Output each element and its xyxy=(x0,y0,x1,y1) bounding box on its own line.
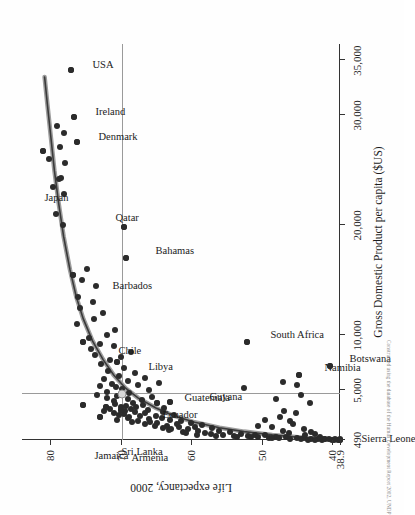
point-label-botswana: Botswana xyxy=(350,353,391,364)
data-point xyxy=(61,130,67,136)
point-label-bahamas: Bahamas xyxy=(156,245,195,256)
data-point xyxy=(199,422,205,428)
data-point-armenia xyxy=(97,414,103,420)
highlighted-data-point xyxy=(118,389,127,398)
data-point xyxy=(135,382,141,388)
data-point xyxy=(79,277,85,283)
data-point xyxy=(152,423,158,429)
data-point-ireland xyxy=(71,114,77,120)
x-tick-label: 20,000 xyxy=(351,210,363,240)
data-point xyxy=(132,370,138,376)
data-point xyxy=(156,380,162,386)
data-point-japan xyxy=(40,148,46,154)
data-point xyxy=(277,414,283,420)
data-point xyxy=(287,436,293,442)
y-tick-label: 70 xyxy=(115,450,127,461)
data-point xyxy=(60,222,66,228)
data-point xyxy=(97,383,103,389)
x-tick-label: 35,000 xyxy=(351,45,363,75)
data-point xyxy=(293,411,299,417)
point-label-barbados: Barbados xyxy=(112,280,152,291)
data-point xyxy=(273,396,279,402)
data-point xyxy=(53,211,59,217)
data-point xyxy=(302,433,308,439)
data-point-namibia xyxy=(296,372,302,378)
data-point xyxy=(255,423,261,429)
data-point xyxy=(234,434,240,440)
point-label-armenia: Armenia xyxy=(132,452,169,463)
reference-line-vertical xyxy=(22,393,340,394)
point-label-guyana: Guyana xyxy=(210,390,243,401)
data-point xyxy=(281,408,287,414)
data-point-usa xyxy=(68,67,74,73)
data-point xyxy=(194,432,200,438)
fit-curve xyxy=(22,44,340,440)
y-tick xyxy=(191,440,192,445)
data-point xyxy=(220,432,226,438)
data-point xyxy=(149,394,155,400)
data-point xyxy=(280,379,286,385)
figure-footnote: Constructed using the database of the Hu… xyxy=(386,340,392,515)
point-label-libya: Libya xyxy=(149,361,174,372)
data-point xyxy=(142,422,148,428)
data-point xyxy=(255,434,261,440)
data-point xyxy=(62,160,68,166)
x-tick-label: 30,000 xyxy=(351,100,363,130)
data-point xyxy=(116,373,122,379)
x-tick xyxy=(340,389,345,390)
x-axis-title: Gross Domestic Product per capita ($US) xyxy=(372,146,384,337)
data-point xyxy=(248,434,254,440)
data-point xyxy=(298,392,304,398)
data-point xyxy=(301,426,307,432)
data-point xyxy=(262,417,268,423)
point-label-usa: USA xyxy=(93,58,114,69)
data-point xyxy=(93,283,99,289)
data-point xyxy=(97,341,103,347)
y-tick xyxy=(50,440,51,445)
data-point xyxy=(50,184,56,190)
x-tick-label: 490 xyxy=(351,432,363,449)
data-point xyxy=(107,357,113,363)
data-point xyxy=(111,343,117,349)
data-point xyxy=(213,433,219,439)
data-point xyxy=(317,434,323,440)
data-point xyxy=(105,368,111,374)
data-point xyxy=(86,335,92,341)
data-point xyxy=(100,310,106,316)
data-point xyxy=(104,395,110,401)
data-point xyxy=(104,389,110,395)
data-point xyxy=(286,430,292,436)
data-point xyxy=(113,384,119,390)
data-point xyxy=(57,144,63,150)
data-point xyxy=(166,427,172,433)
data-point xyxy=(104,332,110,338)
data-point-qatar xyxy=(121,224,127,230)
y-tick-label: 80 xyxy=(44,450,56,461)
x-tick xyxy=(340,114,345,115)
x-tick-label: 10,000 xyxy=(351,320,363,350)
data-point xyxy=(101,376,107,382)
data-point xyxy=(94,392,100,398)
data-point xyxy=(92,352,98,358)
point-label-ireland: Ireland xyxy=(96,105,126,116)
data-point xyxy=(290,422,296,428)
data-point-guatemala xyxy=(154,400,160,406)
reference-line-horizontal xyxy=(122,44,123,440)
point-label-qatar: Qatar xyxy=(115,212,138,223)
data-point xyxy=(46,156,52,162)
point-label-south-africa: South Africa xyxy=(270,329,323,340)
point-label-denmark: Denmark xyxy=(98,130,137,141)
data-point xyxy=(183,430,189,436)
data-point xyxy=(142,375,148,381)
data-point xyxy=(114,417,120,423)
data-point-jamaica xyxy=(80,402,86,408)
y-tick xyxy=(121,440,122,445)
point-label-ecuador: Ecuador xyxy=(162,409,197,420)
data-point xyxy=(84,266,90,272)
data-point xyxy=(276,435,282,441)
data-point xyxy=(269,435,275,441)
data-point xyxy=(54,123,60,129)
data-point xyxy=(307,400,313,406)
